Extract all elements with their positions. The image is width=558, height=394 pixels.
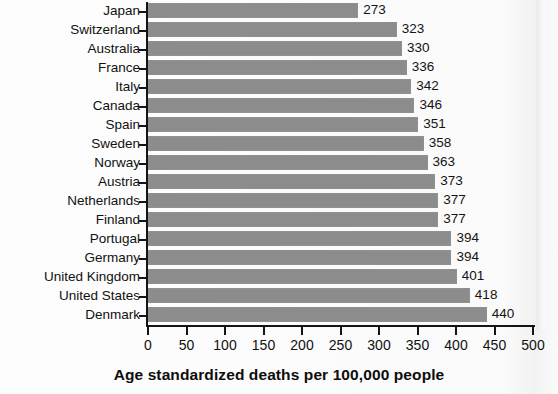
x-axis-tick-label: 500 xyxy=(521,336,544,354)
bar-value-label: 351 xyxy=(423,115,446,133)
bar-row: 363 xyxy=(148,154,534,173)
bar xyxy=(148,22,397,37)
bar-row: 394 xyxy=(148,249,534,268)
x-axis-tick xyxy=(378,327,380,335)
bar xyxy=(148,288,470,303)
bar-value-label: 394 xyxy=(456,248,479,266)
bar-value-label: 440 xyxy=(492,305,515,323)
y-axis-label-netherlands: Netherlands xyxy=(0,192,140,209)
y-axis-label-japan: Japan xyxy=(0,2,140,19)
x-axis-tick xyxy=(301,327,303,335)
x-axis-tick-label: 350 xyxy=(406,336,429,354)
bar-value-label: 377 xyxy=(443,210,466,228)
bar xyxy=(148,193,438,208)
x-axis-tick xyxy=(147,327,149,335)
bar-row: 336 xyxy=(148,59,534,78)
bar-row: 273 xyxy=(148,2,534,21)
bar-row: 440 xyxy=(148,306,534,325)
x-axis-tick-label: 450 xyxy=(483,336,506,354)
scan-edge-artifact xyxy=(536,0,545,330)
bar xyxy=(148,231,451,246)
x-axis-tick-label: 200 xyxy=(290,336,313,354)
x-axis-tick-label: 150 xyxy=(252,336,275,354)
x-axis-tick-label: 50 xyxy=(179,336,195,354)
bar-value-label: 373 xyxy=(440,172,463,190)
y-axis-label-denmark: Denmark xyxy=(0,306,140,323)
y-axis-label-canada: Canada xyxy=(0,97,140,114)
bar xyxy=(148,41,402,56)
bar-value-label: 394 xyxy=(456,229,479,247)
bar-value-label: 342 xyxy=(416,77,439,95)
bar-value-label: 363 xyxy=(433,153,456,171)
bar-value-label: 358 xyxy=(429,134,452,152)
y-axis-label-united-kingdom: United Kingdom xyxy=(0,268,140,285)
bar xyxy=(148,155,428,170)
y-axis-label-australia: Australia xyxy=(0,40,140,57)
x-axis-tick-label: 100 xyxy=(213,336,236,354)
x-axis-tick-label: 250 xyxy=(329,336,352,354)
bar xyxy=(148,79,411,94)
bar xyxy=(148,3,358,18)
y-axis-label-sweden: Sweden xyxy=(0,135,140,152)
y-axis-label-italy: Italy xyxy=(0,78,140,95)
bar-row: 418 xyxy=(148,287,534,306)
plot-area: 2733233303363423463513583633733773773943… xyxy=(148,2,534,325)
bar xyxy=(148,60,407,75)
bar-value-label: 401 xyxy=(462,267,485,285)
x-axis-tick xyxy=(532,327,534,335)
x-axis-title: Age standardized deaths per 100,000 peop… xyxy=(0,366,558,384)
bar-value-label: 377 xyxy=(443,191,466,209)
bar-value-label: 330 xyxy=(407,39,430,57)
bar-row: 377 xyxy=(148,211,534,230)
bar-row: 394 xyxy=(148,230,534,249)
bar-row: 377 xyxy=(148,192,534,211)
x-axis-tick xyxy=(224,327,226,335)
bar xyxy=(148,307,487,322)
x-axis-tick-label: 300 xyxy=(367,336,390,354)
x-axis-tick xyxy=(494,327,496,335)
bar-row: 401 xyxy=(148,268,534,287)
bar xyxy=(148,212,438,227)
bar xyxy=(148,98,414,113)
bar-row: 342 xyxy=(148,78,534,97)
bar-row: 358 xyxy=(148,135,534,154)
x-axis-tick xyxy=(417,327,419,335)
x-axis-tick xyxy=(455,327,457,335)
y-axis-label-switzerland: Switzerland xyxy=(0,21,140,38)
bar xyxy=(148,136,424,151)
y-axis-label-norway: Norway xyxy=(0,154,140,171)
bar-row: 373 xyxy=(148,173,534,192)
bar-row: 351 xyxy=(148,116,534,135)
bar-value-label: 346 xyxy=(419,96,442,114)
y-axis-label-austria: Austria xyxy=(0,173,140,190)
y-axis-label-germany: Germany xyxy=(0,249,140,266)
y-axis-category-labels: JapanSwitzerlandAustraliaFranceItalyCana… xyxy=(0,2,140,325)
y-axis-label-france: France xyxy=(0,59,140,76)
bar-row: 330 xyxy=(148,40,534,59)
x-axis-tick-label: 400 xyxy=(444,336,467,354)
bar xyxy=(148,250,451,265)
bar xyxy=(148,174,435,189)
bar-row: 346 xyxy=(148,97,534,116)
bar xyxy=(148,269,457,284)
x-axis-tick xyxy=(186,327,188,335)
x-axis-tick-label: 0 xyxy=(144,336,152,354)
y-axis-label-united-states: United States xyxy=(0,287,140,304)
x-axis-tick xyxy=(263,327,265,335)
y-axis-label-spain: Spain xyxy=(0,116,140,133)
bar-value-label: 336 xyxy=(412,58,435,76)
bar-chart: JapanSwitzerlandAustraliaFranceItalyCana… xyxy=(0,0,558,394)
bar-row: 323 xyxy=(148,21,534,40)
x-axis-tick xyxy=(340,327,342,335)
bar xyxy=(148,117,418,132)
bar-value-label: 418 xyxy=(475,286,498,304)
bar-value-label: 273 xyxy=(363,1,386,19)
y-axis-label-finland: Finland xyxy=(0,211,140,228)
bar-value-label: 323 xyxy=(402,20,425,38)
y-axis-label-portugal: Portugal xyxy=(0,230,140,247)
